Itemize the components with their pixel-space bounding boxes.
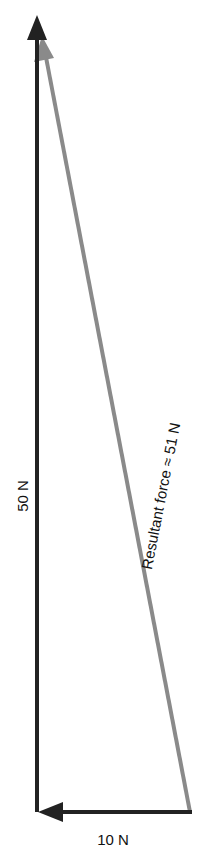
vertical-arrowhead-icon	[27, 15, 47, 40]
horizontal-force-arrow	[38, 802, 192, 822]
horizontal-arrowhead-icon	[38, 802, 63, 822]
vertical-force-arrow	[27, 15, 47, 812]
vector-diagram: 50 N 10 N Resultant force ≈ 51 N	[0, 0, 217, 865]
vertical-force-label: 50 N	[14, 480, 31, 512]
resultant-force-label: Resultant force ≈ 51 N	[138, 421, 183, 571]
horizontal-force-label: 10 N	[97, 831, 129, 848]
